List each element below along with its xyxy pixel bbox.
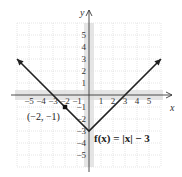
y-tick-label: 5 [82,30,87,40]
y-tick-label: 4 [82,42,87,52]
y-tick-label: −4 [76,138,86,148]
x-axis-title: x [169,102,175,113]
x-tick-label: −3 [48,96,58,106]
point-label: (−2, −1) [27,111,60,123]
y-tick-label: −5 [76,150,86,160]
x-tick-label: 4 [135,96,140,106]
y-tick-label: 1 [82,78,87,88]
y-tick-label: −1 [76,102,86,112]
points [63,105,67,109]
x-tick-label: 1 [99,96,104,106]
function-label: f(x) = |x| − 3 [94,132,150,145]
x-tick-label: −4 [36,96,46,106]
highlighted-point [63,105,67,109]
y-axis-title: y [79,7,85,18]
y-tick-label: 3 [82,54,87,64]
x-tick-label: 5 [147,96,152,106]
y-tick-label: 2 [82,66,87,76]
absolute-value-graph: −5−4−3−2−11234554321−1−2−3−4−5 x y f(x) … [0,0,182,177]
x-tick-label: −5 [24,96,34,106]
